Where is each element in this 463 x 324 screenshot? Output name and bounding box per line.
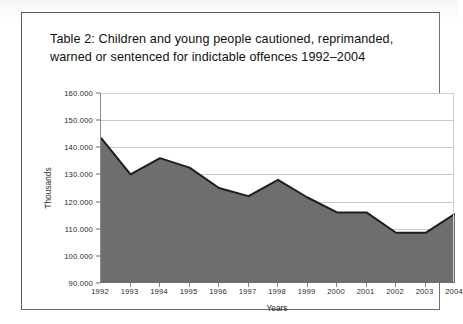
x-tick-mark: [248, 283, 249, 287]
table-caption: Table 2: Children and young people cauti…: [50, 31, 454, 66]
y-axis-title: Thousands: [43, 167, 53, 208]
y-tick-label: 110.000: [65, 224, 93, 233]
area-chart: Thousands 160.000150.000140.000130.00012…: [46, 75, 460, 318]
x-tick-label: 1999: [298, 287, 316, 296]
plot-area: [100, 93, 454, 283]
x-tick-mark: [395, 283, 396, 287]
x-tick-label: 2004: [445, 287, 463, 296]
x-tick-label: 1998: [268, 287, 286, 296]
x-tick-label: 1992: [91, 287, 109, 296]
x-tick-label: 1994: [150, 287, 168, 296]
x-tick-mark: [307, 283, 308, 287]
figure-frame: Table 2: Children and young people cauti…: [21, 12, 440, 310]
y-tick-label: 140.000: [64, 143, 93, 152]
x-tick-mark: [218, 283, 219, 287]
caption-line-2: warned or sentenced for indictable offen…: [50, 49, 454, 67]
x-tick-label: 1996: [209, 287, 227, 296]
x-tick-label: 1995: [180, 287, 198, 296]
x-tick-mark: [189, 283, 190, 287]
y-tick-label: 100.000: [64, 251, 93, 260]
x-tick-label: 2002: [386, 287, 404, 296]
x-tick-label: 2000: [327, 287, 345, 296]
x-tick-label: 1993: [121, 287, 139, 296]
series-area: [101, 93, 455, 283]
y-tick-label: 90.000: [69, 279, 93, 288]
x-tick-mark: [425, 283, 426, 287]
x-tick-mark: [130, 283, 131, 287]
x-tick-mark: [336, 283, 337, 287]
y-tick-label: 120.000: [64, 197, 93, 206]
y-tick-label: 150.000: [64, 116, 93, 125]
x-tick-mark: [366, 283, 367, 287]
caption-line-1: Table 2: Children and young people cauti…: [50, 31, 454, 49]
area-fill: [101, 138, 455, 283]
y-tick-label: 160.000: [64, 89, 93, 98]
x-tick-label: 2001: [357, 287, 375, 296]
x-tick-label: 2003: [416, 287, 434, 296]
x-axis-title: Years: [266, 303, 287, 313]
x-tick-label: 1997: [239, 287, 257, 296]
x-tick-mark: [159, 283, 160, 287]
y-tick-label: 130.000: [64, 170, 93, 179]
x-tick-mark: [277, 283, 278, 287]
